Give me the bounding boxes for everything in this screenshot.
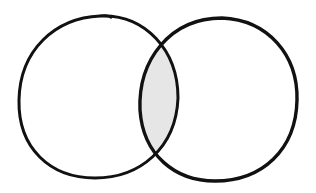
venn-diagram bbox=[0, 0, 316, 193]
pen-mark bbox=[100, 16, 112, 18]
